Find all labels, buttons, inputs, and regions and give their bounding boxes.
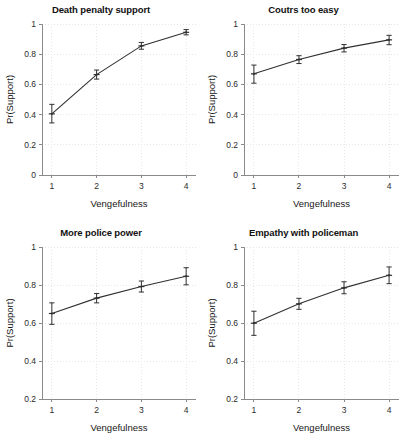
y-tick-label: 0.6 bbox=[226, 318, 238, 328]
x-tick-label: 4 bbox=[387, 181, 392, 191]
data-point-errorbar bbox=[49, 104, 55, 123]
data-point-errorbar bbox=[94, 70, 100, 79]
data-point-errorbar bbox=[341, 45, 347, 52]
y-tick-label: 0.8 bbox=[24, 280, 36, 290]
y-tick-label: 0.4 bbox=[24, 356, 36, 366]
x-axis-title: Vengefulness bbox=[293, 198, 350, 209]
y-tick-label: 0 bbox=[233, 170, 238, 180]
y-tick-label: 0.2 bbox=[24, 394, 36, 404]
y-tick-label: 0.8 bbox=[226, 280, 238, 290]
x-tick-label: 1 bbox=[252, 405, 257, 415]
y-axis-title: Pr(Support) bbox=[206, 298, 217, 347]
x-tick-label: 1 bbox=[49, 405, 54, 415]
data-point-errorbar bbox=[138, 281, 144, 292]
data-point-errorbar bbox=[183, 30, 189, 35]
data-point-errorbar bbox=[251, 65, 257, 83]
data-point-errorbar bbox=[251, 311, 257, 335]
data-point-errorbar bbox=[94, 294, 100, 303]
x-tick-label: 4 bbox=[387, 405, 392, 415]
x-tick-label: 2 bbox=[94, 405, 99, 415]
series-line bbox=[254, 275, 389, 323]
figure-panel-grid: Death penalty support 00.20.40.60.811234… bbox=[0, 0, 405, 447]
y-tick-label: 0.8 bbox=[24, 49, 36, 59]
data-point-errorbar bbox=[296, 56, 302, 64]
plot-area: 00.20.40.60.811234VengefulnessPr(Support… bbox=[202, 0, 405, 223]
data-point-errorbar bbox=[183, 268, 189, 285]
x-tick-label: 4 bbox=[184, 405, 189, 415]
x-axis-title: Vengefulness bbox=[293, 422, 350, 433]
data-point-errorbar bbox=[296, 298, 302, 309]
y-tick-label: 0.8 bbox=[226, 49, 238, 59]
x-tick-label: 3 bbox=[139, 405, 144, 415]
y-tick-label: 0.4 bbox=[24, 110, 36, 120]
y-tick-label: 0.2 bbox=[226, 140, 238, 150]
series-line bbox=[52, 276, 186, 313]
y-tick-label: 0 bbox=[31, 170, 36, 180]
y-tick-label: 0.6 bbox=[226, 79, 238, 89]
chart-panel-death-penalty-support: Death penalty support 00.20.40.60.811234… bbox=[0, 0, 202, 223]
y-tick-label: 1 bbox=[31, 242, 36, 252]
y-axis-title: Pr(Support) bbox=[4, 298, 15, 347]
y-tick-label: 1 bbox=[31, 19, 36, 29]
data-point-errorbar bbox=[341, 282, 347, 294]
y-tick-label: 0.2 bbox=[24, 140, 36, 150]
x-tick-label: 2 bbox=[297, 181, 302, 191]
y-tick-label: 1 bbox=[233, 242, 238, 252]
series-line bbox=[254, 40, 389, 74]
y-tick-label: 0.4 bbox=[226, 110, 238, 120]
data-point-errorbar bbox=[386, 267, 392, 284]
x-axis-title: Vengefulness bbox=[90, 198, 147, 209]
x-tick-label: 3 bbox=[342, 405, 347, 415]
y-axis-title: Pr(Support) bbox=[206, 75, 217, 124]
x-axis-title: Vengefulness bbox=[90, 422, 147, 433]
x-tick-label: 1 bbox=[252, 181, 257, 191]
y-tick-label: 0.2 bbox=[226, 394, 238, 404]
y-axis-title: Pr(Support) bbox=[4, 75, 15, 124]
y-tick-label: 0.6 bbox=[24, 79, 36, 89]
x-tick-label: 3 bbox=[139, 181, 144, 191]
data-point-errorbar bbox=[138, 42, 144, 49]
x-tick-label: 4 bbox=[184, 181, 189, 191]
x-tick-label: 3 bbox=[342, 181, 347, 191]
plot-area: 00.20.40.60.811234VengefulnessPr(Support… bbox=[0, 0, 202, 223]
series-line bbox=[52, 32, 186, 114]
x-tick-label: 2 bbox=[297, 405, 302, 415]
x-tick-label: 1 bbox=[49, 181, 54, 191]
plot-area: 0.20.40.60.811234VengefulnessPr(Support) bbox=[202, 223, 405, 447]
y-tick-label: 1 bbox=[233, 19, 238, 29]
y-tick-label: 0.4 bbox=[226, 356, 238, 366]
x-tick-label: 2 bbox=[94, 181, 99, 191]
chart-panel-coutrs-too-easy: Coutrs too easy 00.20.40.60.811234Vengef… bbox=[202, 0, 405, 223]
chart-panel-more-police-power: More police power 0.20.40.60.811234Venge… bbox=[0, 223, 202, 447]
plot-area: 0.20.40.60.811234VengefulnessPr(Support) bbox=[0, 223, 202, 447]
data-point-errorbar bbox=[49, 303, 55, 324]
chart-panel-empathy-with-policeman: Empathy with policeman 0.20.40.60.811234… bbox=[202, 223, 405, 447]
data-point-errorbar bbox=[386, 35, 392, 44]
y-tick-label: 0.6 bbox=[24, 318, 36, 328]
